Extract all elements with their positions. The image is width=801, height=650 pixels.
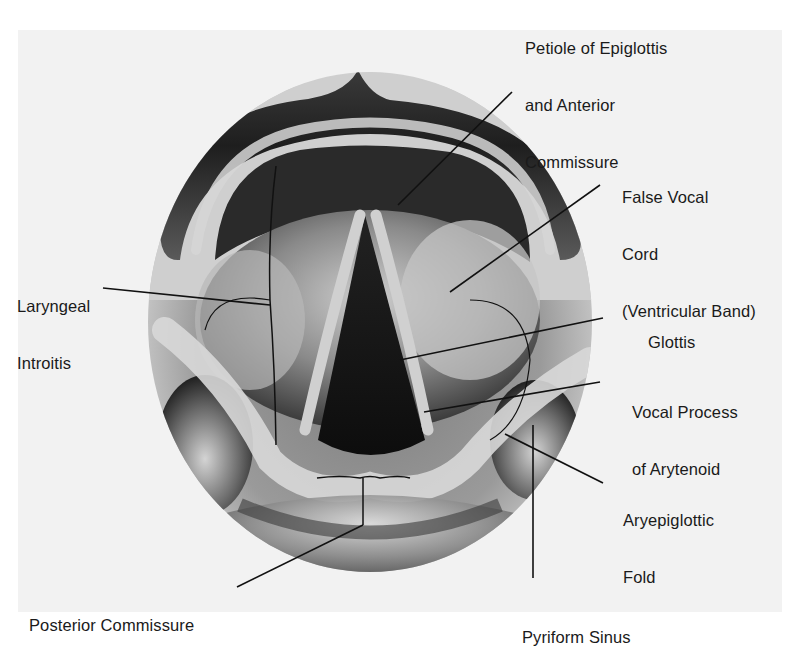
label-posterior-commissure: Posterior Commissure: [29, 578, 194, 650]
label-laryngeal-introitis: Laryngeal Introitis: [17, 259, 90, 392]
label-aryepiglottic-fold: Aryepiglottic Fold: [623, 473, 714, 606]
label-pyriform-sinus: Pyriform Sinus: [522, 590, 631, 650]
label-glottis: Glottis: [648, 295, 695, 371]
